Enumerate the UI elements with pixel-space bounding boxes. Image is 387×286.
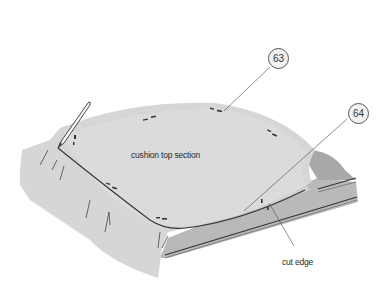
- callout-63: 63: [268, 48, 289, 69]
- label-cut-edge: cut edge: [282, 257, 313, 267]
- callout-64: 64: [348, 103, 369, 124]
- label-cushion-top-section: cushion top section: [131, 150, 200, 160]
- callout-63-number: 63: [273, 53, 284, 64]
- cushion-diagram: 63 64 cushion top section cut edge: [0, 0, 387, 286]
- callout-64-number: 64: [353, 108, 364, 119]
